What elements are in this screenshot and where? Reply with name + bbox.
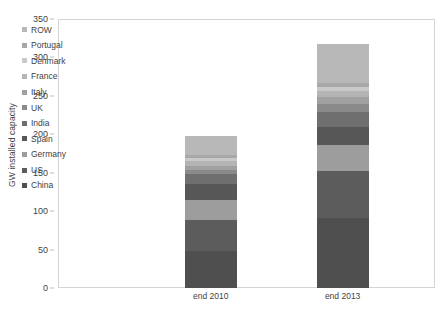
legend-swatch-icon — [22, 27, 27, 32]
legend-swatch-icon — [22, 74, 27, 79]
legend-swatch-icon — [22, 43, 27, 48]
x-axis-category-label: end 2013 — [283, 291, 403, 301]
legend-item-label: China — [31, 181, 53, 190]
legend-item-row[interactable]: ROW — [22, 22, 94, 38]
legend-item-label: India — [31, 119, 49, 128]
legend-swatch-icon — [22, 183, 27, 188]
legend-swatch-icon — [22, 152, 27, 157]
legend-item-label: France — [31, 72, 57, 81]
bar-group — [185, 19, 237, 288]
bar-segment-italy[interactable] — [317, 97, 369, 104]
bar-segment-spain[interactable] — [185, 184, 237, 199]
legend-item-portugal[interactable]: Portugal — [22, 38, 94, 54]
stacked-bar-chart: GW installed capacity 050100150200250300… — [0, 0, 443, 310]
legend-item-label: Portugal — [31, 41, 63, 50]
legend-swatch-icon — [22, 90, 27, 95]
x-axis-category-label: end 2010 — [151, 291, 271, 301]
legend-swatch-icon — [22, 168, 27, 173]
legend-swatch-icon — [22, 105, 27, 110]
legend-item-label: Denmark — [31, 57, 65, 66]
legend-swatch-icon — [22, 58, 27, 63]
legend-item-label: Germany — [31, 150, 66, 159]
legend-swatch-icon — [22, 121, 27, 126]
legend-item-italy[interactable]: Italy — [22, 84, 94, 100]
legend-item-india[interactable]: India — [22, 116, 94, 132]
bar-group — [317, 19, 369, 288]
bar-stack[interactable] — [317, 44, 369, 288]
y-axis-tick-label: 50 — [38, 245, 48, 255]
y-axis-tick-mark — [50, 19, 54, 20]
bar-segment-germany[interactable] — [185, 200, 237, 221]
y-axis-title: GW installed capacity — [2, 0, 22, 290]
bar-segment-china[interactable] — [185, 251, 237, 288]
bar-segment-row[interactable] — [317, 44, 369, 83]
y-axis-tick-mark — [50, 211, 54, 212]
bar-segment-us[interactable] — [185, 220, 237, 251]
bar-segment-uk[interactable] — [317, 104, 369, 112]
y-axis-tick-mark — [50, 249, 54, 250]
bar-segment-row[interactable] — [185, 136, 237, 155]
plot-area — [58, 19, 435, 288]
y-axis-tick-label: 0 — [43, 283, 48, 293]
legend-item-label: ROW — [31, 26, 52, 35]
bar-segment-germany[interactable] — [317, 145, 369, 171]
legend-item-uk[interactable]: UK — [22, 100, 94, 116]
y-axis-tick-mark — [50, 288, 54, 289]
legend-item-label: US — [31, 166, 43, 175]
legend-item-denmark[interactable]: Denmark — [22, 53, 94, 69]
legend-item-france[interactable]: France — [22, 69, 94, 85]
legend-item-label: Italy — [31, 88, 47, 97]
chart-legend: ROWPortugalDenmarkFranceItalyUKIndiaSpai… — [22, 22, 94, 194]
bar-segment-spain[interactable] — [317, 127, 369, 145]
bar-segment-india[interactable] — [317, 112, 369, 127]
legend-item-germany[interactable]: Germany — [22, 147, 94, 163]
bar-segment-china[interactable] — [317, 218, 369, 288]
legend-item-china[interactable]: China — [22, 178, 94, 194]
bar-stack[interactable] — [185, 136, 237, 288]
bar-segment-india[interactable] — [185, 174, 237, 184]
legend-item-label: Spain — [31, 135, 53, 144]
legend-item-us[interactable]: US — [22, 162, 94, 178]
y-axis-tick-label: 100 — [33, 206, 48, 216]
legend-item-spain[interactable]: Spain — [22, 131, 94, 147]
legend-item-label: UK — [31, 104, 43, 113]
y-axis-title-text: GW installed capacity — [7, 103, 17, 187]
bar-segment-us[interactable] — [317, 171, 369, 218]
legend-swatch-icon — [22, 136, 27, 141]
